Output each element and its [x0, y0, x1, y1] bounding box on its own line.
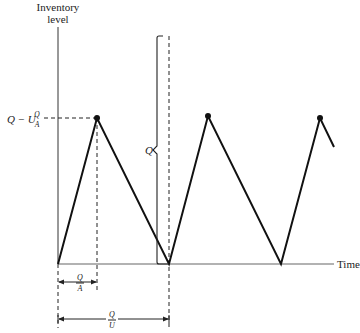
- peak-marker-1: [94, 115, 100, 121]
- y-axis-label-line1: Inventory: [37, 1, 80, 13]
- cycle-time-dimension: Q U: [58, 310, 169, 330]
- order-quantity-bracket: [153, 36, 169, 264]
- order-quantity-label: Q: [145, 144, 153, 156]
- production-time-den: A: [77, 284, 83, 293]
- inventory-sawtooth-line: [58, 116, 334, 264]
- production-time-num: Q: [77, 273, 83, 282]
- peak-marker-2: [205, 113, 211, 119]
- y-axis-label-line2: level: [47, 13, 68, 25]
- peak-marker-3: [317, 115, 323, 121]
- peak-level-frac-num: Q: [34, 110, 40, 119]
- peak-level-frac-den: A: [34, 120, 40, 129]
- production-time-dimension: Q A: [58, 273, 97, 293]
- peak-level-prefix: Q − U: [7, 113, 37, 125]
- peak-level-label: Q − U Q A: [7, 110, 40, 129]
- inventory-diagram: Inventory level Time Q − U Q A Q Q A: [0, 0, 360, 333]
- x-axis-label: Time: [337, 258, 360, 270]
- cycle-time-num: Q: [109, 310, 115, 319]
